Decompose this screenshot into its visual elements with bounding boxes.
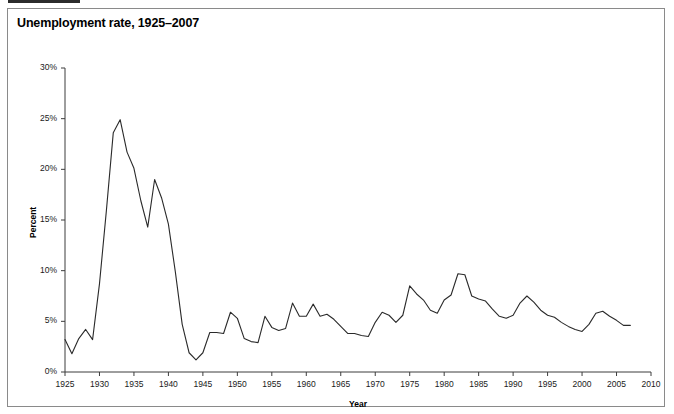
y-axis-tick-label: 10% bbox=[15, 265, 57, 275]
data-series-line bbox=[65, 120, 630, 360]
y-axis-tick-label: 25% bbox=[15, 113, 57, 123]
y-axis-title: Percent bbox=[28, 207, 38, 238]
plot-area bbox=[0, 0, 674, 414]
line-chart-svg bbox=[0, 0, 674, 414]
y-axis-tick-label: 30% bbox=[15, 62, 57, 72]
figure-root: Unemployment rate, 1925–2007 0%5%10%15%2… bbox=[0, 0, 674, 414]
x-axis-title: Year bbox=[65, 399, 651, 409]
y-axis-tick-label: 20% bbox=[15, 163, 57, 173]
y-axis-tick-label: 5% bbox=[15, 315, 57, 325]
x-axis-tick-label: 2010 bbox=[631, 379, 671, 389]
y-axis-tick-label: 0% bbox=[15, 366, 57, 376]
